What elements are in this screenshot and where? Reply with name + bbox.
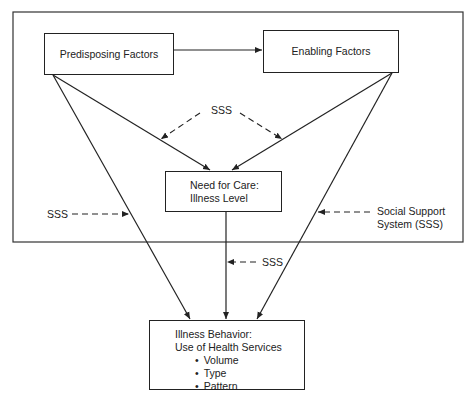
bullet-type: Type: [195, 367, 282, 380]
node-behavior-line1: Illness Behavior:: [175, 328, 282, 341]
bullet-pattern: Pattern: [195, 380, 282, 393]
sss-dashed-arrow-top-left: [161, 113, 200, 139]
sss-legend: Social Support System (SSS): [377, 205, 445, 231]
node-enabling-factors: Enabling Factors: [263, 30, 399, 73]
sss-label-left: SSS: [47, 208, 68, 221]
node-illness-behavior: Illness Behavior: Use of Health Services…: [149, 320, 305, 390]
node-need-line2: Illness Level: [190, 192, 259, 205]
node-predisposing-label: Predisposing Factors: [60, 48, 159, 61]
edge-predisposing-need: [53, 75, 210, 170]
sss-label-bottom: SSS: [262, 256, 283, 269]
behavior-bullet-list: Volume Type Pattern: [175, 354, 282, 393]
sss-legend-line1: Social Support: [377, 205, 445, 218]
sss-dashed-arrow-top-right: [240, 113, 282, 139]
node-behavior-line2: Use of Health Services: [175, 341, 282, 354]
sss-legend-line2: System (SSS): [377, 218, 445, 231]
node-need-for-care: Need for Care: Illness Level: [165, 171, 282, 212]
node-need-line1: Need for Care:: [190, 179, 259, 192]
edge-enabling-need: [232, 73, 392, 170]
node-predisposing-factors: Predisposing Factors: [44, 33, 174, 75]
sss-label-top: SSS: [211, 104, 232, 117]
bullet-volume: Volume: [195, 354, 282, 367]
node-enabling-label: Enabling Factors: [292, 45, 371, 58]
